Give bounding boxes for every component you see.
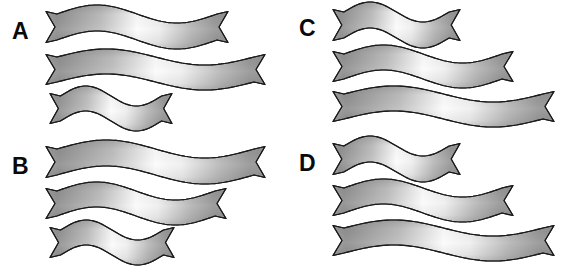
ribbon-b-3 <box>50 220 174 265</box>
ribbon-c-3 <box>333 86 554 127</box>
ribbon-d-2 <box>333 179 513 222</box>
panel-d: D <box>287 135 574 269</box>
ribbon-a-2 <box>46 49 265 90</box>
ribbon-b-2 <box>46 182 226 225</box>
panel-d-artwork <box>287 135 574 269</box>
ribbon-d-3 <box>333 220 554 261</box>
ribbon-c-1 <box>333 2 460 48</box>
ribbon-a-3-shading <box>50 86 172 131</box>
ribbon-b-2-shading <box>46 182 226 225</box>
panel-a-artwork <box>0 0 287 134</box>
panel-a: A <box>0 0 287 134</box>
ribbon-a-2-shading <box>46 49 265 90</box>
panel-c: C <box>287 0 574 134</box>
ribbon-b-1 <box>46 140 265 184</box>
ribbon-c-3-shading <box>333 86 554 127</box>
ribbon-d-1 <box>333 136 460 182</box>
ribbon-figure: ABCD <box>0 0 574 269</box>
ribbon-c-2-shading <box>333 45 513 88</box>
panel-b-artwork <box>0 135 287 269</box>
ribbon-b-3-shading <box>50 220 174 265</box>
panel-b: B <box>0 135 287 269</box>
ribbon-b-1-shading <box>46 140 265 184</box>
ribbon-c-1-shading <box>333 2 460 48</box>
ribbon-c-2 <box>333 45 513 88</box>
ribbon-a-1-shading <box>46 5 228 49</box>
panel-c-artwork <box>287 0 574 134</box>
ribbon-d-1-shading <box>333 136 460 182</box>
ribbon-d-3-shading <box>333 220 554 261</box>
ribbon-a-3 <box>50 86 172 131</box>
ribbon-a-1 <box>46 5 228 49</box>
ribbon-d-2-shading <box>333 179 513 222</box>
